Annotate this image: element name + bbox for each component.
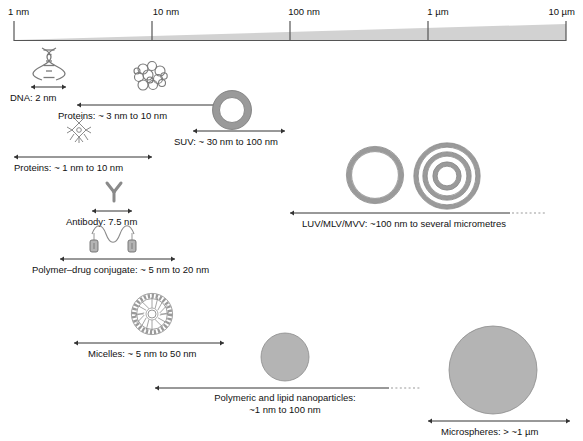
proteins-star-size-bar	[0, 152, 583, 162]
axis-tick-label-10nm: 10 nm	[153, 6, 179, 17]
luv-mlv-mvv-size-bar	[0, 208, 583, 218]
nanoparticles-label-line2: ~1 nm to 100 nm	[205, 404, 365, 416]
size-scale-figure: 1 nm 10 nm 100 nm 1 µm 10 µm DNA: 2 nm	[0, 0, 583, 441]
dna-helix-icon	[32, 46, 66, 82]
liposome-ring-icon	[344, 144, 406, 206]
polymer-drug-conjugate-size-bar	[0, 254, 583, 264]
vesicle-ring-icon	[212, 90, 252, 130]
axis-tick-label-1um: 1 µm	[427, 6, 448, 17]
axis-tick-label-10um: 10 µm	[548, 6, 575, 17]
nanoparticle-circle-icon	[259, 331, 311, 383]
microsphere-circle-icon	[447, 324, 539, 416]
proteins-star-label: Proteins: ~ 1 nm to 10 nm	[14, 162, 123, 174]
axis-tick-label-1nm: 1 nm	[8, 6, 29, 17]
antibody-y-icon	[103, 180, 125, 204]
axis-tick-label-100nm: 100 nm	[288, 6, 320, 17]
scale-wedge-axis	[0, 20, 583, 44]
multilamellar-vesicle-icon	[411, 140, 483, 212]
microspheres-label: Microspheres: > ~1 µm	[441, 426, 538, 438]
polymer-drug-conjugate-icon	[88, 222, 146, 254]
protein-star-icon	[62, 118, 96, 148]
micelle-icon	[128, 290, 176, 338]
protein-blob-icon	[130, 60, 172, 94]
polymer-drug-conjugate-label: Polymer–drug conjugate: ~ 5 nm to 20 nm	[32, 264, 209, 276]
luv-mlv-mvv-label: LUV/MLV/MVV: ~100 nm to several micromet…	[302, 218, 506, 230]
micelles-label: Micelles: ~ 5 nm to 50 nm	[88, 348, 197, 360]
nanoparticles-label-line1: Polymeric and lipid nanoparticles:	[205, 392, 365, 404]
dna-size-bar	[0, 82, 583, 92]
microspheres-size-bar	[0, 416, 583, 426]
suv-label: SUV: ~ 30 nm to 100 nm	[174, 136, 278, 148]
proteins-globular-size-bar	[0, 100, 583, 110]
